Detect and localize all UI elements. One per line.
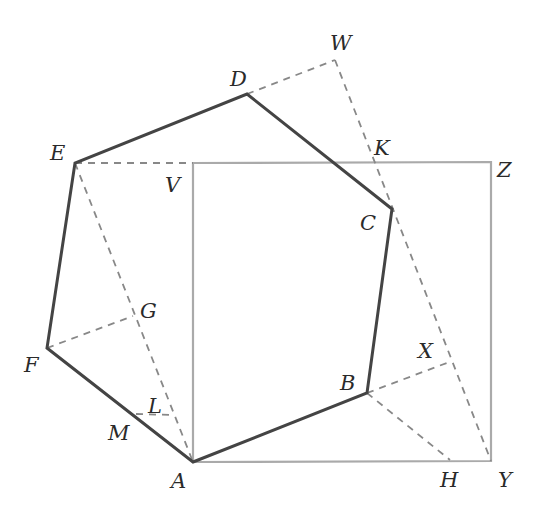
hexagon [47, 94, 392, 462]
point-label-Y: Y [498, 468, 514, 492]
dashed-segment-FG [47, 316, 133, 348]
dashed-segment-DW [247, 60, 335, 94]
point-label-M: M [107, 421, 130, 445]
point-label-Z: Z [496, 158, 512, 182]
dashed-segment-BX [367, 361, 452, 393]
point-label-V: V [165, 173, 182, 197]
point-labels: ABCDEFGHKLMVWXYZ [23, 31, 514, 493]
point-label-D: D [229, 67, 247, 91]
dashed-segment-BH [367, 393, 450, 460]
point-label-K: K [373, 136, 391, 160]
point-label-E: E [49, 141, 65, 165]
diagram-svg: ABCDEFGHKLMVWXYZ [0, 0, 546, 512]
square [193, 162, 491, 462]
hexagon-ABCDEF [47, 94, 392, 462]
point-label-A: A [169, 469, 186, 493]
point-label-F: F [23, 353, 40, 377]
point-label-H: H [439, 468, 459, 492]
point-label-G: G [140, 299, 157, 323]
dashed-segment-WY [335, 60, 491, 461]
point-label-C: C [360, 211, 376, 235]
geometry-diagram: ABCDEFGHKLMVWXYZ [0, 0, 546, 512]
point-label-L: L [147, 394, 162, 418]
point-label-W: W [330, 31, 354, 55]
point-label-X: X [416, 339, 434, 363]
square-AYZV [193, 162, 491, 462]
point-label-B: B [339, 371, 355, 395]
